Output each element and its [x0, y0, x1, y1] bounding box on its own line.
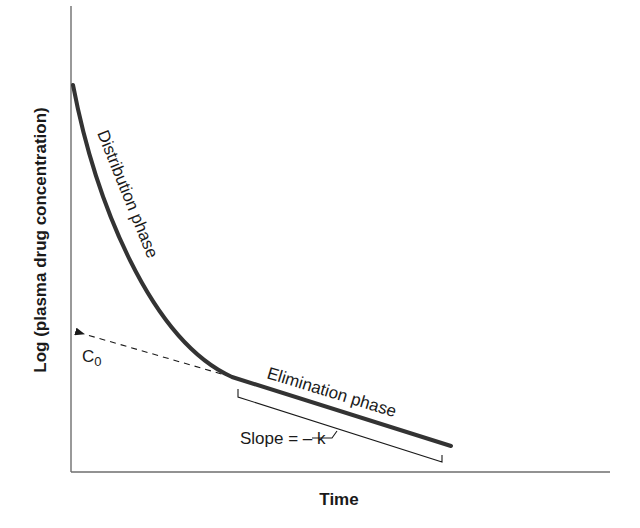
pharmacokinetic-diagram: Log (plasma drug concentration) Time Dis… — [0, 0, 640, 528]
c0-subscript: 0 — [94, 354, 101, 369]
c0-label: C0 — [82, 347, 102, 369]
concentration-curve — [73, 85, 451, 446]
y-axis-title: Log (plasma drug concentration) — [31, 107, 50, 372]
c0-main: C — [82, 347, 94, 366]
x-axis-title: Time — [319, 490, 358, 509]
slope-label: Slope = – k — [240, 429, 326, 448]
extrapolation-dashed-line — [84, 334, 232, 377]
